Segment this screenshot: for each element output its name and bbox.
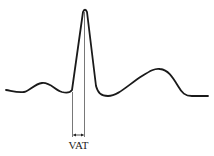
vat-label: VAT xyxy=(69,139,89,151)
ecg-diagram: VAT xyxy=(0,0,214,156)
ecg-waveform-trace xyxy=(6,10,208,96)
vat-double-arrow xyxy=(73,134,84,137)
